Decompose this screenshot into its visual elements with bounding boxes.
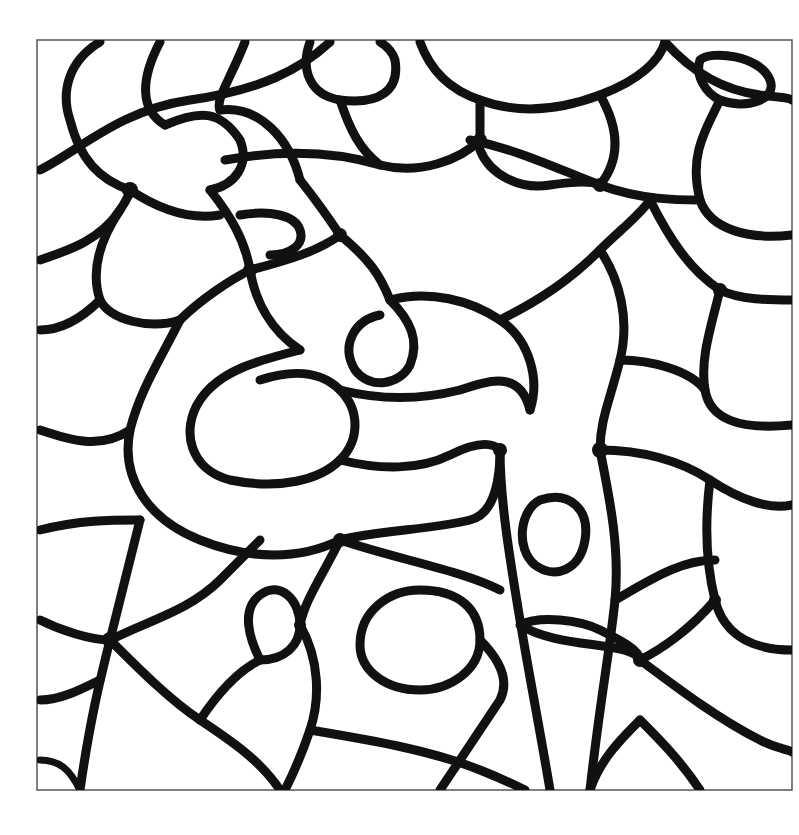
abstract-line-art xyxy=(0,0,799,835)
line-network xyxy=(40,42,792,790)
